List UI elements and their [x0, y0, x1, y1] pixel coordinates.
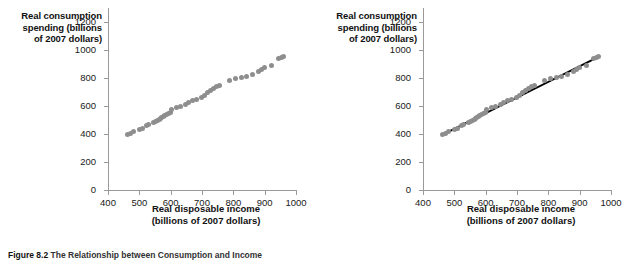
- scatter-point: [239, 75, 244, 80]
- x-axis-tick: 700: [517, 190, 518, 195]
- y-axis-tick: 800: [419, 78, 424, 79]
- scatter-point: [542, 78, 547, 83]
- y-axis-tick-label: 1000: [390, 44, 411, 55]
- y-axis-tick: 1200: [104, 22, 109, 23]
- x-axis-tick: 1000: [296, 190, 297, 195]
- y-axis-tick-label: 1000: [75, 44, 96, 55]
- x-axis-tick: 700: [202, 190, 203, 195]
- scatter-point: [532, 83, 537, 88]
- x-axis-tick: 800: [233, 190, 234, 195]
- scatter-point: [244, 74, 249, 79]
- x-axis-tick: 500: [454, 190, 455, 195]
- plot-area-right: 0200400600800100012004005006007008009001…: [423, 8, 611, 191]
- y-axis-tick-label: 0: [91, 184, 96, 195]
- y-axis-tick-label: 800: [395, 72, 411, 83]
- y-axis-tick-label: 0: [406, 184, 411, 195]
- x-axis-label-line-2: (billions of 2007 dollars): [108, 215, 304, 227]
- y-axis-tick: 1200: [419, 22, 424, 23]
- y-axis-tick-label: 600: [80, 100, 96, 111]
- figure-caption: Figure 8.2 The Relationship between Cons…: [8, 250, 620, 260]
- scatter-point: [227, 78, 232, 83]
- y-axis-tick: 1000: [419, 50, 424, 51]
- x-axis-label-right: Real disposable income (billions of 2007…: [423, 203, 619, 226]
- scatter-point: [596, 54, 601, 59]
- y-axis-tick: 600: [104, 106, 109, 107]
- x-axis-tick: 900: [580, 190, 581, 195]
- y-axis-tick: 200: [419, 162, 424, 163]
- scatter-point: [548, 76, 553, 81]
- y-axis-tick: 1000: [104, 50, 109, 51]
- chart-panel-left: Real consumption spending (billions of 2…: [0, 0, 314, 232]
- y-axis-tick-label: 800: [80, 72, 96, 83]
- figure-container: Real consumption spending (billions of 2…: [0, 0, 629, 260]
- y-axis-tick-label: 200: [395, 156, 411, 167]
- scatter-point: [146, 122, 151, 127]
- scatter-point: [217, 83, 222, 88]
- y-axis-line-right: [423, 8, 424, 191]
- scatter-point: [269, 63, 274, 68]
- x-axis-tick: 400: [423, 190, 424, 195]
- chart-panel-right: Real consumption spending (billions of 2…: [315, 0, 629, 232]
- y-axis-line-left: [108, 8, 109, 191]
- x-axis-label-line-1: Real disposable income: [108, 203, 304, 215]
- x-axis-tick: 800: [548, 190, 549, 195]
- y-axis-tick: 400: [419, 134, 424, 135]
- figure-caption-text: The Relationship between Consumption and…: [51, 250, 263, 260]
- y-axis-tick-label: 200: [80, 156, 96, 167]
- x-axis-tick: 600: [171, 190, 172, 195]
- y-axis-label-line-3: of 2007 dollars): [321, 33, 417, 45]
- x-axis-tick: 900: [265, 190, 266, 195]
- y-axis-tick-label: 400: [395, 128, 411, 139]
- scatter-point: [446, 129, 451, 134]
- scatter-point: [281, 54, 286, 59]
- y-axis-tick-label: 400: [80, 128, 96, 139]
- scatter-point: [565, 72, 570, 77]
- y-axis-tick-label: 1200: [75, 16, 96, 27]
- y-axis-tick: 800: [104, 78, 109, 79]
- scatter-point: [250, 72, 255, 77]
- y-axis-tick: 400: [104, 134, 109, 135]
- y-axis-label-line-3: of 2007 dollars): [6, 33, 102, 45]
- scatter-point: [131, 129, 136, 134]
- x-axis-tick: 400: [108, 190, 109, 195]
- x-axis-label-line-2: (billions of 2007 dollars): [423, 215, 619, 227]
- figure-number: Figure 8.2: [8, 250, 48, 260]
- y-axis-tick: 200: [104, 162, 109, 163]
- y-axis-tick-label: 600: [395, 100, 411, 111]
- scatter-point: [461, 122, 466, 127]
- scatter-point: [262, 65, 267, 70]
- x-axis-tick: 600: [486, 190, 487, 195]
- y-axis-tick: 600: [419, 106, 424, 107]
- scatter-point: [577, 65, 582, 70]
- scatter-point: [233, 76, 238, 81]
- scatter-point: [554, 75, 559, 80]
- y-axis-tick-label: 1200: [390, 16, 411, 27]
- scatter-point: [584, 63, 589, 68]
- x-axis-label-line-1: Real disposable income: [423, 203, 619, 215]
- scatter-point: [559, 74, 564, 79]
- x-axis-label-left: Real disposable income (billions of 2007…: [108, 203, 304, 226]
- plot-area-left: 0200400600800100012004005006007008009001…: [108, 8, 296, 191]
- x-axis-tick: 500: [139, 190, 140, 195]
- x-axis-tick: 1000: [611, 190, 612, 195]
